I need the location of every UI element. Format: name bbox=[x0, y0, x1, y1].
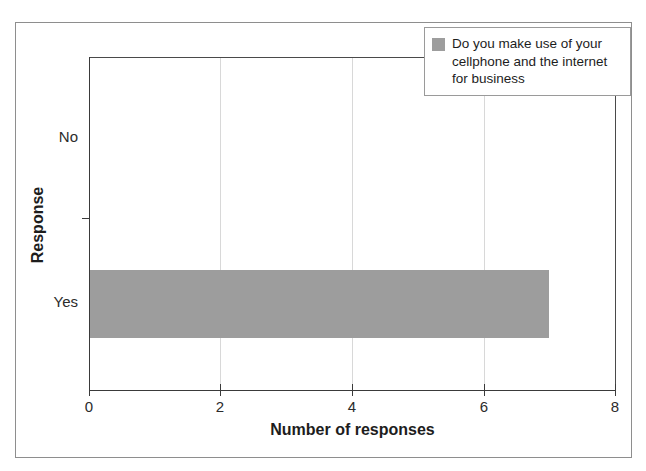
x-tick-mark-6 bbox=[484, 384, 485, 396]
x-tick-mark-4 bbox=[352, 384, 353, 396]
y-tick-mark-mid bbox=[82, 218, 90, 219]
x-tick-label-0: 0 bbox=[69, 398, 109, 415]
x-tick-mark-8 bbox=[615, 384, 616, 396]
bar-yes[interactable] bbox=[90, 270, 549, 338]
gridline-x-2 bbox=[220, 58, 221, 390]
y-axis-title: Response bbox=[29, 150, 47, 300]
x-tick-label-4: 4 bbox=[332, 398, 372, 415]
gridline-x-4 bbox=[352, 58, 353, 390]
plot-right-border bbox=[615, 57, 616, 391]
legend-swatch-icon bbox=[432, 38, 445, 51]
x-tick-label-6: 6 bbox=[464, 398, 504, 415]
y-axis-line bbox=[89, 57, 90, 391]
chart-legend: Do you make use of your cellphone and th… bbox=[424, 27, 631, 96]
legend-entry-label: Do you make use of your cellphone and th… bbox=[452, 35, 607, 88]
gridline-x-6 bbox=[484, 58, 485, 390]
x-tick-mark-2 bbox=[220, 384, 221, 396]
chart-figure: 0 2 4 6 8 No Yes Number of responses Res… bbox=[0, 0, 646, 471]
x-tick-label-8: 8 bbox=[595, 398, 635, 415]
x-tick-label-2: 2 bbox=[200, 398, 240, 415]
x-tick-mark-0 bbox=[89, 384, 90, 396]
y-tick-label-no: No bbox=[8, 128, 78, 145]
x-axis-title: Number of responses bbox=[89, 421, 616, 439]
